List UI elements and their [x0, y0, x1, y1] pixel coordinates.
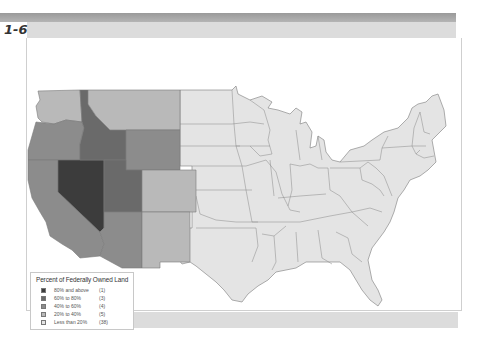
legend-item: 20% to 40% (5) — [41, 311, 131, 318]
state-colorado — [142, 170, 196, 212]
state-oregon — [28, 120, 84, 160]
legend-count: (4) — [99, 303, 105, 310]
legend-title: Percent of Federally Owned Land — [36, 276, 128, 283]
state-arizona — [100, 212, 142, 268]
legend-item: 40% to 60% (4) — [41, 303, 131, 310]
legend-label: 80% and above — [54, 287, 89, 294]
state-wyoming — [126, 130, 180, 170]
legend-swatch — [41, 304, 46, 309]
state-base-east — [170, 86, 446, 306]
legend-swatch — [41, 320, 46, 325]
legend-swatch — [41, 288, 46, 293]
legend-count: (38) — [99, 319, 108, 326]
legend-item: Less than 20% (38) — [41, 319, 131, 326]
legend-item: 60% to 80% (3) — [41, 295, 131, 302]
legend-count: (3) — [99, 295, 105, 302]
legend-count: (5) — [99, 311, 105, 318]
legend-item: 80% and above (1) — [41, 287, 131, 294]
legend-label: 20% to 40% — [54, 311, 81, 318]
map-legend: Percent of Federally Owned Land 80% and … — [30, 272, 134, 330]
legend-label: 40% to 60% — [54, 303, 81, 310]
legend-label: Less than 20% — [54, 319, 87, 326]
legend-swatch — [41, 312, 46, 317]
legend-label: 60% to 80% — [54, 295, 81, 302]
state-washington — [36, 90, 82, 124]
legend-swatch — [41, 296, 46, 301]
state-new-mexico — [142, 212, 190, 268]
legend-count: (1) — [99, 287, 105, 294]
